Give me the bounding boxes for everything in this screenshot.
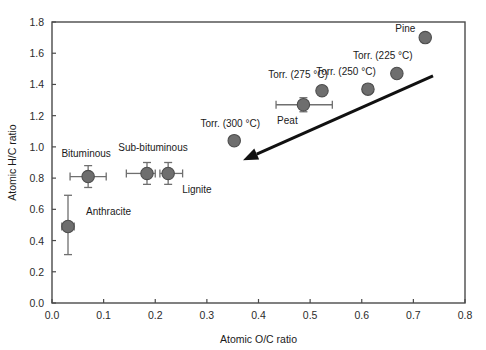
data-point-group [70,166,106,188]
x-tick-label: 0.4 [251,309,266,321]
data-point-marker[interactable] [162,167,174,179]
y-tick-label: 0.0 [29,297,44,309]
data-point-marker[interactable] [62,220,74,232]
point-label: Anthracite [86,206,131,217]
x-tick-label: 0.7 [406,309,421,321]
chart-figure: 0.00.10.20.30.40.50.60.70.80.00.20.40.60… [0,0,486,350]
point-label: Bituminous [61,148,110,159]
x-tick-label: 0.6 [354,309,369,321]
data-point-group [276,98,332,112]
annotation-layer [243,76,433,160]
data-point-group [391,67,403,79]
data-point-group [316,84,328,96]
y-tick-label: 0.8 [29,172,44,184]
x-tick-label: 0.0 [45,309,60,321]
y-tick-label: 0.6 [29,203,44,215]
data-point-group [160,163,183,185]
point-label: Lignite [182,184,212,195]
y-tick-label: 1.6 [29,47,44,59]
y-tick-label: 1.4 [29,78,44,90]
data-point-marker[interactable] [316,84,328,96]
x-tick-label: 0.2 [148,309,163,321]
point-label: Pine [395,23,415,34]
y-tick-label: 1.2 [29,110,44,122]
point-label: Torr. (225 °C) [353,50,413,61]
y-tick-label: 1.0 [29,141,44,153]
van-krevelen-scatter-plot: 0.00.10.20.30.40.50.60.70.80.00.20.40.60… [0,0,486,350]
y-tick-label: 0.2 [29,266,44,278]
point-labels-layer: AnthraciteBituminousSub-bituminousLignit… [61,23,415,217]
data-point-group [362,83,374,95]
point-label: Peat [277,115,298,126]
data-point-marker[interactable] [419,31,431,43]
data-point-marker[interactable] [228,134,240,146]
x-tick-label: 0.5 [303,309,318,321]
data-point-group [228,134,240,146]
point-label: Torr. (250 °C) [316,66,376,77]
y-tick-label: 0.4 [29,235,44,247]
y-tick-label: 1.8 [29,16,44,28]
plot-frame [52,22,465,303]
x-tick-label: 0.3 [200,309,215,321]
x-tick-label: 0.8 [458,309,473,321]
data-point-group [419,31,431,43]
data-point-marker[interactable] [82,170,94,182]
data-point-group [62,195,74,254]
y-axis-title: Atomic H/C ratio [6,124,18,201]
point-label: Torr. (300 °C) [200,118,260,129]
data-point-marker[interactable] [391,67,403,79]
torrefaction-trend-arrow-head [243,149,259,161]
data-point-marker[interactable] [141,167,153,179]
data-point-group [126,163,155,185]
axes-layer: 0.00.10.20.30.40.50.60.70.80.00.20.40.60… [29,16,472,321]
x-axis-title: Atomic O/C ratio [220,333,297,345]
data-point-marker[interactable] [297,99,309,111]
data-point-marker[interactable] [362,83,374,95]
x-tick-label: 0.1 [96,309,111,321]
point-label: Sub-bituminous [118,142,187,153]
